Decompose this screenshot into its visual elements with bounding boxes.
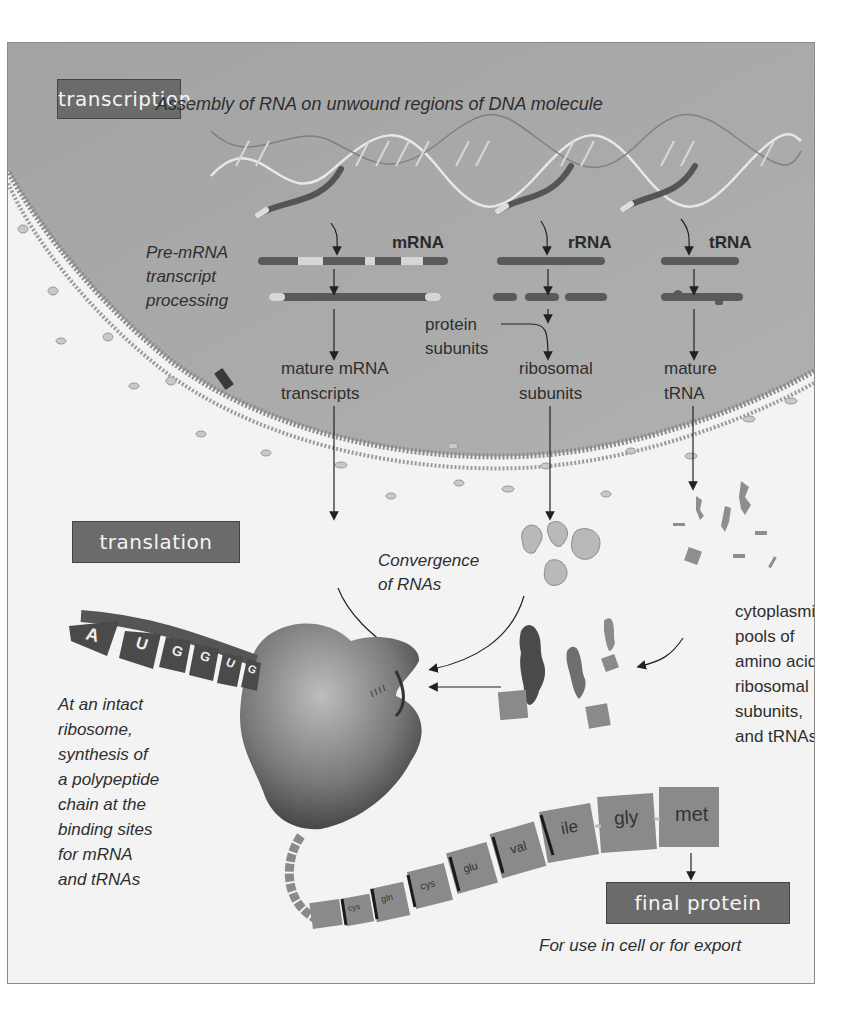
translation-label: translation [72,521,240,563]
ribosomal-subunits [522,522,600,586]
ribosome [240,624,422,830]
final-protein-label: final protein [606,882,790,924]
protein-subunits-line-2: subunits [425,339,488,359]
ribosome-text-line-2: ribosome, [58,720,133,740]
mature-trna-line-2: tRNA [664,384,705,404]
cytoplasmic-line-6: and tRNAs [735,727,815,747]
ribosome-text-line-1: At an intact [58,695,143,715]
ribosome-text-line-7: for mRNA [58,845,133,865]
final-protein-caption: For use in cell or for export [539,936,741,956]
amino-acid-label: gly [613,806,639,830]
diagram-frame: transcription Assembly of RNA on unwound… [7,42,815,984]
ribosome-text-line-4: a polypeptide [58,770,159,790]
rrna-label: rRNA [568,233,611,253]
processing-label-line-3: processing [146,291,228,311]
processing-label-line-2: transcript [146,267,216,287]
cytoplasmic-line-4: ribosomal [735,677,809,697]
mature-mrna-line-1: mature mRNA [281,359,389,379]
ribosomal-subunits-line-2: subunits [519,384,582,404]
cytoplasmic-line-5: subunits, [735,702,803,722]
convergence-line-2: of RNAs [378,575,441,595]
convergence-line-1: Convergence [378,551,479,571]
transcription-caption: Assembly of RNA on unwound regions of DN… [156,94,603,115]
processing-label-line-1: Pre-mRNA [146,243,228,263]
cytoplasmic-line-2: pools of [735,627,795,647]
trna-label: tRNA [709,233,752,253]
amino-acid-label: ile [559,817,579,840]
ribosome-text-line-3: synthesis of [58,745,148,765]
ribosome-text-line-8: and tRNAs [58,870,140,890]
ribosome-text-line-6: binding sites [58,820,153,840]
mature-mrna-line-2: transcripts [281,384,359,404]
amino-acid-label: met [675,803,708,826]
charged-trnas [498,618,619,729]
ribosomal-subunits-line-1: ribosomal [519,359,593,379]
diagram-artwork [8,43,814,983]
cytoplasmic-line-3: amino acids, [735,652,815,672]
protein-subunits-line-1: protein [425,315,477,335]
mature-trna-line-1: mature [664,359,717,379]
cytoplasmic-line-1: cytoplasmic [735,602,815,622]
cytoplasmic-pool [673,481,777,568]
mrna-label: mRNA [392,233,444,253]
ribosome-text-line-5: chain at the [58,795,146,815]
